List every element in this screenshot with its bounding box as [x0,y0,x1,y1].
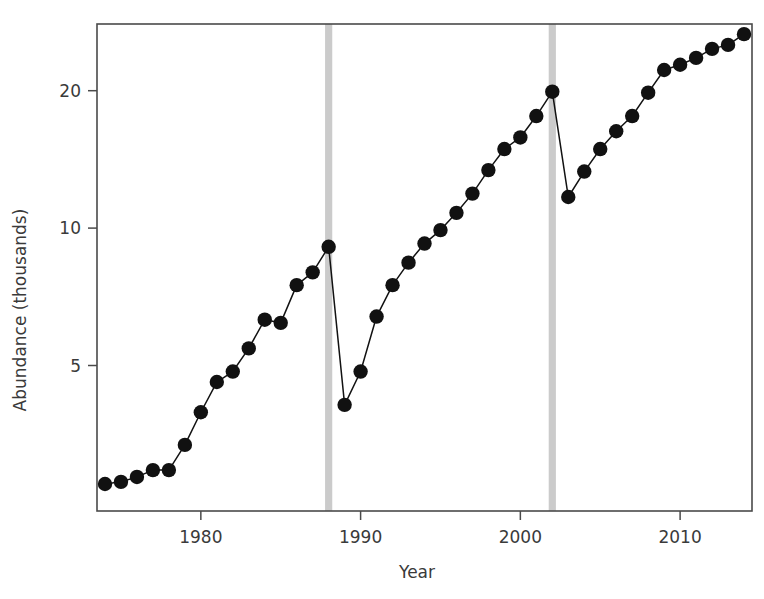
data-point-1977 [146,463,160,477]
data-point-1994 [417,236,431,250]
data-point-1982 [226,364,240,378]
y-axis-title: Abundance (thousands) [10,209,30,412]
data-point-2002 [545,84,559,98]
x-tick-label-2000: 2000 [499,527,542,547]
data-point-1992 [385,278,399,292]
data-point-2010 [673,58,687,72]
event-bands-group [325,24,556,511]
data-point-2003 [561,190,575,204]
data-point-1993 [401,255,415,269]
data-point-1986 [290,278,304,292]
data-point-2013 [721,38,735,52]
x-axis-title: Year [398,562,435,582]
data-point-2004 [577,164,591,178]
data-point-2001 [529,109,543,123]
data-point-2006 [609,124,623,138]
data-point-1996 [449,206,463,220]
y-tick-label-5: 5 [70,356,81,376]
x-axis-ticks-group: 1980199020002010 [179,511,702,547]
data-point-1975 [114,475,128,489]
data-point-1987 [305,265,319,279]
data-point-2014 [737,27,751,41]
data-point-1988 [321,240,335,254]
data-point-2000 [513,130,527,144]
data-point-1985 [274,316,288,330]
data-point-1980 [194,405,208,419]
data-point-2011 [689,51,703,65]
data-point-1990 [353,364,367,378]
y-axis-ticks-group: 51020 [59,81,97,376]
data-point-1979 [178,438,192,452]
data-point-1978 [162,463,176,477]
data-point-2008 [641,85,655,99]
data-point-1991 [369,309,383,323]
y-tick-label-20: 20 [59,81,81,101]
chart-figure: 1980199020002010 51020 Year Abundance (t… [0,0,764,599]
data-point-1984 [258,312,272,326]
data-point-1974 [98,477,112,491]
series-plot-group [98,27,751,491]
data-point-1981 [210,375,224,389]
data-point-1995 [433,223,447,237]
data-point-2012 [705,42,719,56]
data-point-1998 [481,163,495,177]
abundance-time-series-chart: 1980199020002010 51020 Year Abundance (t… [0,0,764,599]
data-point-1976 [130,470,144,484]
data-point-1997 [465,186,479,200]
data-point-1999 [497,142,511,156]
data-point-2005 [593,142,607,156]
x-tick-label-1980: 1980 [179,527,222,547]
x-tick-label-2010: 2010 [658,527,701,547]
data-point-2007 [625,109,639,123]
data-point-1989 [337,398,351,412]
y-tick-label-10: 10 [59,218,81,238]
data-point-1983 [242,341,256,355]
data-point-2009 [657,63,671,77]
x-tick-label-1990: 1990 [339,527,382,547]
